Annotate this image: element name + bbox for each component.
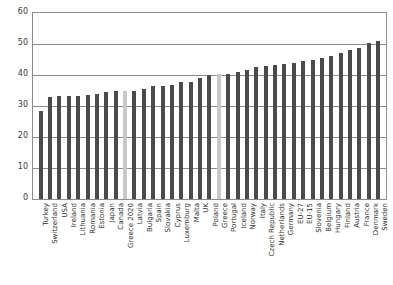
y-tick-label: 0 <box>23 194 28 202</box>
bar-slot <box>252 13 261 199</box>
x-label-slot: Finland <box>337 201 346 285</box>
bar[interactable] <box>282 64 286 199</box>
y-tick-label: 60 <box>18 8 28 16</box>
x-label-slot: Denmark <box>365 201 374 285</box>
bar-slot <box>158 13 167 199</box>
bar[interactable] <box>67 96 71 199</box>
bar-slot <box>64 13 73 199</box>
x-label-slot: Latvia <box>129 201 138 285</box>
bar[interactable] <box>348 50 352 199</box>
bar[interactable] <box>207 75 211 199</box>
bar[interactable] <box>226 74 230 199</box>
bar[interactable] <box>292 63 296 199</box>
bar-chart: 0102030405060 TurkeySwitzerlandUSAIrelan… <box>0 0 393 285</box>
x-label-slot: Japan <box>101 201 110 285</box>
bar-slot <box>270 13 279 199</box>
y-tick-label: 40 <box>18 70 28 78</box>
bar-slot <box>317 13 326 199</box>
bar-slot <box>92 13 101 199</box>
bar[interactable] <box>217 74 221 199</box>
bar[interactable] <box>86 95 90 199</box>
bar[interactable] <box>132 91 136 200</box>
bar-slot <box>242 13 251 199</box>
bar-slot <box>111 13 120 199</box>
bar-slot <box>233 13 242 199</box>
x-label-slot: Spain <box>148 201 157 285</box>
x-label-slot: Norway <box>243 201 252 285</box>
bar[interactable] <box>357 48 361 199</box>
x-label-slot: Hungary <box>328 201 337 285</box>
bar-slot <box>355 13 364 199</box>
x-label-slot: Ireland <box>63 201 72 285</box>
bar[interactable] <box>376 41 380 199</box>
bar-slot <box>55 13 64 199</box>
x-label-slot: Austria <box>346 201 355 285</box>
x-label-slot: Canada <box>111 201 120 285</box>
x-label-slot: Luxemburg <box>177 201 186 285</box>
x-label-slot: EU-27 <box>290 201 299 285</box>
y-tick-label: 20 <box>18 132 28 140</box>
bar[interactable] <box>339 53 343 199</box>
bar-slot <box>336 13 345 199</box>
bar[interactable] <box>104 92 108 199</box>
bar-slot <box>299 13 308 199</box>
bar[interactable] <box>301 61 305 199</box>
bar[interactable] <box>179 82 183 199</box>
bar[interactable] <box>189 82 193 199</box>
y-axis: 0102030405060 <box>0 0 32 212</box>
x-label-slot: EU-15 <box>299 201 308 285</box>
x-label-slot: Iceland <box>233 201 242 285</box>
bar-slot <box>224 13 233 199</box>
bar-slot <box>120 13 129 199</box>
bar-slot <box>205 13 214 199</box>
bar-slot <box>139 13 148 199</box>
bar-slot <box>327 13 336 199</box>
bar[interactable] <box>170 85 174 199</box>
bar-slot <box>261 13 270 199</box>
bar-slot <box>83 13 92 199</box>
bar-slot <box>177 13 186 199</box>
x-label-slot: Sweden <box>375 201 384 285</box>
bar[interactable] <box>320 58 324 199</box>
bar[interactable] <box>161 86 165 199</box>
bar[interactable] <box>367 43 371 199</box>
bar[interactable] <box>311 60 315 199</box>
x-label-slot: Cyprus <box>167 201 176 285</box>
y-tick-label: 30 <box>18 101 28 109</box>
x-label-slot: Malta <box>186 201 195 285</box>
bar[interactable] <box>198 78 202 199</box>
bar-slot <box>149 13 158 199</box>
bar[interactable] <box>254 67 258 199</box>
bar[interactable] <box>273 65 277 199</box>
x-label-slot: UK <box>195 201 204 285</box>
x-label-slot: Italy <box>252 201 261 285</box>
x-label-slot: Portugal <box>224 201 233 285</box>
x-label-slot: Czech Republic <box>262 201 271 285</box>
x-label-slot: Romania <box>82 201 91 285</box>
bar[interactable] <box>123 91 127 200</box>
bar[interactable] <box>264 66 268 199</box>
bar[interactable] <box>95 94 99 199</box>
bar-slot <box>345 13 354 199</box>
bar[interactable] <box>57 96 61 199</box>
bar-slot <box>130 13 139 199</box>
bar[interactable] <box>329 56 333 199</box>
bar[interactable] <box>114 91 118 199</box>
x-label-slot: Greece 2020 <box>120 201 129 285</box>
bar-slot <box>36 13 45 199</box>
bar-slot <box>289 13 298 199</box>
x-label-slot: Slovenia <box>309 201 318 285</box>
bar[interactable] <box>48 97 52 199</box>
bar[interactable] <box>245 70 249 199</box>
x-label-slot: Lithuania <box>73 201 82 285</box>
bar[interactable] <box>76 96 80 199</box>
y-tick-label: 50 <box>18 39 28 47</box>
x-label-slot: Slovakia <box>158 201 167 285</box>
bar-slot <box>214 13 223 199</box>
bar-slot <box>280 13 289 199</box>
bar[interactable] <box>39 111 43 199</box>
bar[interactable] <box>142 89 146 199</box>
bar[interactable] <box>236 72 240 199</box>
bar[interactable] <box>151 86 155 199</box>
bar-slot <box>195 13 204 199</box>
